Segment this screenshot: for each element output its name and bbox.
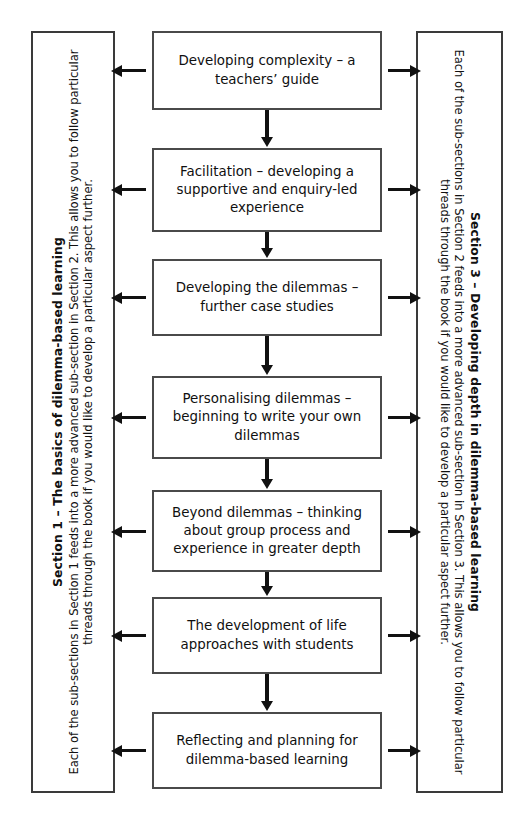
process-box-3-label: Developing the dilemmas – further case s… bbox=[160, 279, 374, 315]
section-1-rotated-text-wrapper: Section 1 – The basics of dilemma-based … bbox=[33, 33, 113, 791]
left-arrow-box-1 bbox=[122, 69, 146, 72]
section-3-panel: Section 3 – Developing depth in dilemma-… bbox=[416, 31, 503, 793]
left-arrow-box-6 bbox=[122, 634, 146, 637]
section-1-panel: Section 1 – The basics of dilemma-based … bbox=[31, 31, 115, 793]
flow-arrow-5-to-6 bbox=[265, 572, 269, 587]
flow-arrow-4-to-5 bbox=[265, 459, 269, 480]
flow-arrow-2-to-3 bbox=[265, 232, 269, 249]
right-arrow-box-4 bbox=[388, 416, 410, 419]
flowchart-diagram: Section 1 – The basics of dilemma-based … bbox=[0, 0, 525, 820]
process-box-3: Developing the dilemmas – further case s… bbox=[152, 259, 382, 336]
process-box-5: Beyond dilemmas – thinking about group p… bbox=[152, 490, 382, 572]
section-3-body: Each of the sub-sections in Section 2 fe… bbox=[436, 33, 466, 791]
right-arrow-box-6 bbox=[388, 634, 410, 637]
right-arrow-box-1 bbox=[388, 69, 410, 72]
left-arrow-box-2 bbox=[122, 188, 146, 191]
left-arrow-box-4 bbox=[122, 416, 146, 419]
process-box-1-label: Developing complexity – a teachers’ guid… bbox=[160, 52, 374, 88]
left-arrow-box-3 bbox=[122, 296, 146, 299]
left-arrow-box-5 bbox=[122, 530, 146, 533]
process-box-2: Facilitation – developing a supportive a… bbox=[152, 148, 382, 232]
process-box-7-label: Reflecting and planning for dilemma-base… bbox=[160, 732, 374, 768]
right-arrow-box-3 bbox=[388, 296, 410, 299]
section-1-title: Section 1 – The basics of dilemma-based … bbox=[50, 33, 66, 791]
left-arrow-box-7 bbox=[122, 749, 146, 752]
section-1-text: Section 1 – The basics of dilemma-based … bbox=[50, 33, 97, 791]
process-box-4-label: Personalising dilemmas – beginning to wr… bbox=[160, 390, 374, 445]
right-arrow-box-5 bbox=[388, 530, 410, 533]
flow-arrow-1-to-2 bbox=[265, 110, 269, 138]
process-box-7: Reflecting and planning for dilemma-base… bbox=[152, 712, 382, 789]
process-box-6: The development of life approaches with … bbox=[152, 597, 382, 674]
process-box-4: Personalising dilemmas – beginning to wr… bbox=[152, 376, 382, 459]
process-box-2-label: Facilitation – developing a supportive a… bbox=[160, 163, 374, 218]
flow-arrow-3-to-4 bbox=[265, 336, 269, 366]
right-arrow-box-7 bbox=[388, 749, 410, 752]
flow-arrow-6-to-7 bbox=[265, 674, 269, 702]
process-box-5-label: Beyond dilemmas – thinking about group p… bbox=[160, 504, 374, 559]
section-1-body: Each of the sub-sections in Section 1 fe… bbox=[67, 33, 97, 791]
section-3-rotated-text-wrapper: Section 3 – Developing depth in dilemma-… bbox=[420, 33, 500, 791]
section-3-text: Section 3 – Developing depth in dilemma-… bbox=[436, 33, 483, 791]
process-box-1: Developing complexity – a teachers’ guid… bbox=[152, 31, 382, 110]
section-3-title: Section 3 – Developing depth in dilemma-… bbox=[467, 33, 483, 791]
process-box-6-label: The development of life approaches with … bbox=[160, 617, 374, 653]
right-arrow-box-2 bbox=[388, 188, 410, 191]
